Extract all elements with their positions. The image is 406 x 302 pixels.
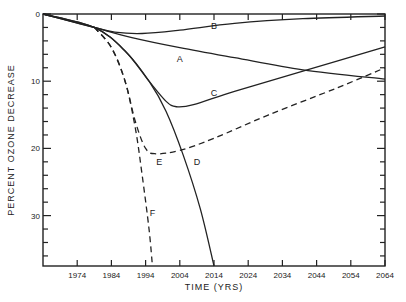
y-tick-label: 30 [31, 212, 40, 221]
x-tick-label: 2054 [342, 271, 360, 280]
x-tick-label: 1974 [68, 271, 86, 280]
curve-f [94, 27, 152, 266]
x-tick-label: 2044 [308, 271, 326, 280]
x-tick-label: 2064 [376, 271, 394, 280]
x-tick-label: 2004 [171, 271, 189, 280]
curve-label-e: E [156, 157, 162, 167]
x-tick-label: 2024 [239, 271, 257, 280]
y-axis-ticks: 0102030 [31, 10, 385, 256]
curve-e [94, 27, 385, 153]
y-axis-title: PERCENT OZONE DECREASE [6, 64, 16, 215]
curve-label-b: B [211, 21, 217, 31]
x-tick-label: 1984 [103, 271, 121, 280]
y-tick-label: 0 [36, 10, 41, 19]
curve-label-a: A [177, 54, 183, 64]
ozone-decrease-chart: 0102030 19741984199420042014202420342044… [0, 0, 406, 302]
curve-d [43, 14, 214, 266]
x-tick-label: 2014 [205, 271, 223, 280]
x-tick-label: 1994 [137, 271, 155, 280]
x-axis-title: TIME (YRS) [185, 282, 244, 292]
plot-frame [43, 14, 385, 266]
plot-border [43, 14, 385, 266]
y-tick-label: 10 [31, 77, 40, 86]
x-axis-ticks: 1974198419942004201420242034204420542064 [68, 14, 394, 280]
x-tick-label: 2034 [274, 271, 292, 280]
curve-label-c: C [211, 88, 218, 98]
curve-label-d: D [194, 157, 201, 167]
curve-labels: ABCDEF [150, 21, 218, 218]
data-curves [43, 14, 385, 266]
curve-label-f: F [150, 208, 156, 218]
y-tick-label: 20 [31, 144, 40, 153]
